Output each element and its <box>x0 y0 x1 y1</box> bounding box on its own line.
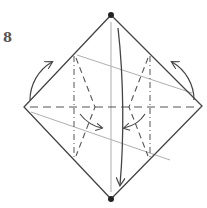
bottom-dot <box>108 196 114 202</box>
inner-right-arrow-icon <box>124 114 145 128</box>
thin-line-upper <box>77 55 192 93</box>
top-dot <box>108 12 114 18</box>
origami-diagram <box>0 0 207 208</box>
